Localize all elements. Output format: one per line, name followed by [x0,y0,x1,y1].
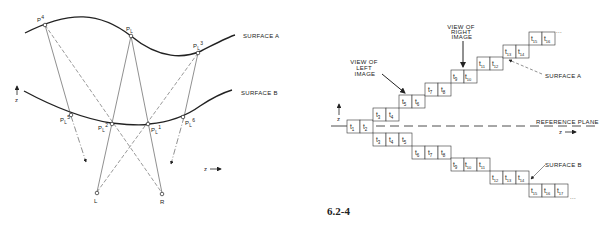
label-view-left: VIEW OF LEFT IMAGE [350,59,379,77]
view-left-arrow [382,74,405,93]
label-pl6: PL6 [185,117,195,128]
label-p4: P4 [37,14,44,23]
arrow-rays [71,116,184,164]
label-view-right: VIEW OF RIGHT IMAGE [447,24,476,40]
label-surface-b: SURFACE B [241,90,278,96]
label-surface-b-right: SURFACE B [545,162,582,168]
point-pl2 [110,122,114,126]
right-diagram: REFERENCE PLANE z z t1 t2 t3 t4 t5 t6 t7… [331,24,600,200]
left-diagram: P4 PL PL3 PL5 PL2 PL1 PL6 L R SURFACE A … [15,14,279,205]
eye-right [160,192,164,196]
label-reference-plane: REFERENCE PLANE [536,119,599,125]
label-pl3: PL3 [193,40,203,51]
label-surface-a-right: SURFACE A [545,73,581,79]
label-reference-z: z [559,129,562,135]
dashed-rays [45,25,198,193]
label-eye-right: R [160,199,165,205]
label-pl1: PL1 [151,124,161,135]
figure-canvas: P4 PL PL3 PL5 PL2 PL1 PL6 L R SURFACE A … [0,0,608,225]
surface-a-pointer [509,60,542,74]
label-surface-a: SURFACE A [243,33,279,39]
point-p4 [43,23,47,27]
point-pl1 [146,122,150,126]
surface-b-ellipsis: ... [570,194,576,200]
horizontal-axis-label: z [204,166,207,172]
label-pl2: PL2 [98,122,108,133]
figure-number: 6.2-4 [327,205,350,217]
surface-b-pointer [531,165,545,179]
point-pl6 [181,115,185,119]
surface-b-curve [24,90,232,125]
surface-a-ellipsis: ... [556,28,562,34]
point-pl [129,34,133,38]
vertical-axis-label: z [15,97,18,103]
solid-rays [45,25,198,193]
eye-left [95,191,99,195]
point-pl3 [196,51,200,55]
label-pl5: PL5 [60,114,70,125]
right-vertical-axis-label: z [337,116,340,122]
label-eye-left: L [94,198,98,204]
